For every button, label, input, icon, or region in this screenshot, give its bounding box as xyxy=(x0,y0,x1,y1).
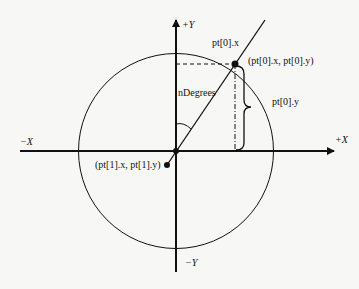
pt1-coords-label: (pt[1].x, pt[1].y) xyxy=(95,159,161,171)
pos-x-label: +X xyxy=(335,134,349,145)
pt0-point xyxy=(232,61,239,68)
neg-y-label: −Y xyxy=(185,257,199,268)
angle-label: nDegrees xyxy=(178,87,216,98)
unit-circle-diagram: +Y −Y +X −X pt[0].x (pt[0].x, pt[0].y) p… xyxy=(0,0,359,289)
neg-x-label: −X xyxy=(20,136,34,147)
y-brace xyxy=(236,66,251,150)
pos-y-label: +Y xyxy=(182,19,196,30)
angle-arc xyxy=(176,124,191,129)
pt0-coords-label: (pt[0].x, pt[0].y) xyxy=(248,55,314,67)
pt0-y-label: pt[0].y xyxy=(272,96,299,107)
pt0-x-label: pt[0].x xyxy=(212,37,239,48)
origin-point xyxy=(173,148,179,154)
pt1-point xyxy=(164,162,170,168)
